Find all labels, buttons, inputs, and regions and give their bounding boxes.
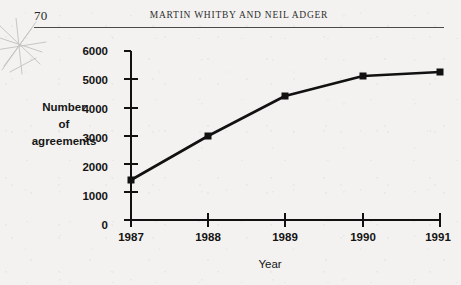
data-point-1988	[205, 133, 212, 140]
x-tick-label-1989: 1989	[262, 231, 308, 243]
scanned-page: 70 MARTIN WHITBY AND NEIL ADGER Number o…	[0, 0, 461, 285]
data-point-1987	[128, 177, 135, 184]
data-series-line	[131, 72, 440, 180]
data-point-1989	[282, 93, 289, 100]
x-tick-label-1991: 1991	[415, 231, 461, 243]
x-tick-label-1990: 1990	[340, 231, 386, 243]
data-point-1990	[360, 73, 367, 80]
x-axis-title: Year	[230, 258, 310, 270]
line-chart-figure: Number of agreements 6000 5000 4000 3000…	[0, 0, 461, 285]
data-point-1991	[437, 69, 444, 76]
x-tick-label-1987: 1987	[108, 231, 154, 243]
data-point-markers	[128, 69, 444, 184]
x-tick-label-1988: 1988	[185, 231, 231, 243]
